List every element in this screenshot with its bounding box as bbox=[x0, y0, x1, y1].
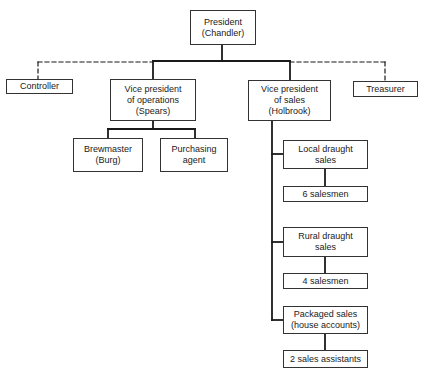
node-local-draught-sales: Local draught sales bbox=[283, 140, 368, 169]
node-vp-sales: Vice president of sales (Holbrook) bbox=[248, 80, 331, 121]
node-rural-draught-sales: Rural draught sales bbox=[283, 227, 368, 257]
node-vp-operations: Vice president of operations (Spears) bbox=[110, 79, 196, 121]
node-two-sales-assistants: 2 sales assistants bbox=[283, 350, 368, 368]
node-purchasing-agent: Purchasing agent bbox=[160, 138, 228, 172]
node-president: President (Chandler) bbox=[190, 10, 256, 45]
node-controller: Controller bbox=[6, 79, 73, 94]
node-four-salesmen: 4 salesmen bbox=[283, 273, 368, 289]
node-treasurer: Treasurer bbox=[353, 81, 418, 97]
node-brewmaster: Brewmaster (Burg) bbox=[73, 138, 143, 172]
node-packaged-sales: Packaged sales (house accounts) bbox=[283, 306, 368, 334]
node-six-salesmen: 6 salesmen bbox=[283, 186, 368, 202]
